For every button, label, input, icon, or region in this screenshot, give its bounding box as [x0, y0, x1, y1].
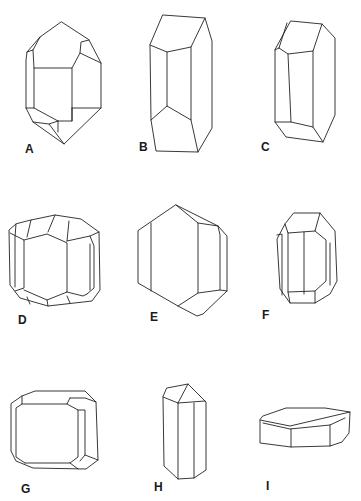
crystal-h-drawing	[163, 384, 206, 479]
label-i: I	[266, 480, 269, 492]
label-b: B	[139, 141, 148, 153]
label-c: C	[261, 141, 270, 153]
label-g: G	[21, 483, 30, 495]
crystal-e-drawing	[138, 205, 227, 316]
crystal-d-drawing	[9, 215, 100, 306]
label-h: H	[154, 481, 163, 493]
label-f: F	[262, 309, 269, 321]
crystal-c-drawing	[275, 21, 335, 142]
crystal-habits-figure	[0, 0, 361, 501]
crystal-a-drawing	[26, 22, 101, 144]
label-e: E	[150, 311, 158, 323]
crystal-b-drawing	[150, 15, 212, 152]
label-d: D	[18, 314, 27, 326]
crystal-i-drawing	[260, 408, 350, 447]
label-a: A	[25, 143, 34, 155]
crystal-g-drawing	[11, 391, 98, 469]
crystal-f-drawing	[277, 213, 337, 303]
